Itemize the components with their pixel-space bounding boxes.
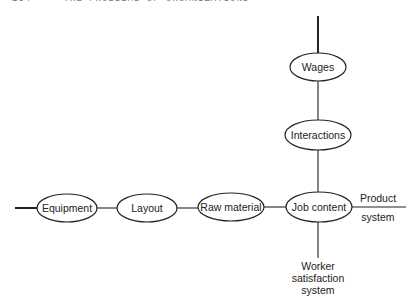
- label-layout: Layout: [131, 202, 163, 214]
- label-equipment: Equipment: [42, 202, 92, 214]
- label-satisfaction: satisfaction: [292, 272, 345, 284]
- label-wages: Wages: [302, 61, 334, 73]
- label-worker: Worker: [301, 260, 335, 272]
- label-job-content: Job content: [292, 201, 346, 213]
- systems-diagram: Wages Interactions Equipment Layout Raw …: [0, 0, 418, 307]
- label-product-system: system: [361, 211, 395, 223]
- label-worker-system: system: [301, 284, 335, 296]
- label-product: Product: [360, 192, 396, 204]
- label-interactions: Interactions: [291, 129, 345, 141]
- label-raw-material: Raw material: [200, 201, 261, 213]
